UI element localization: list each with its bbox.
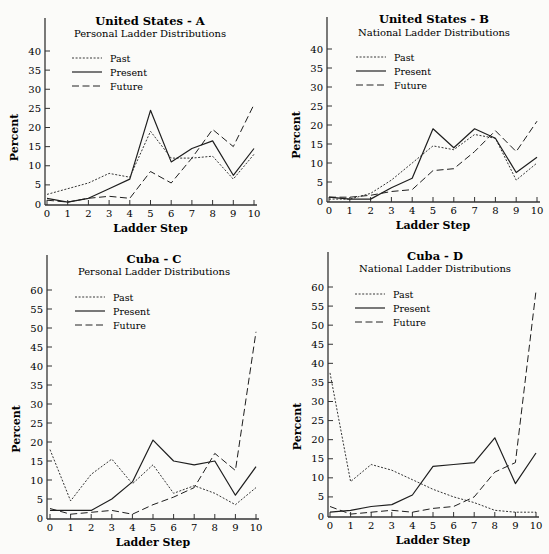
x-tick-label: 2 — [88, 522, 94, 533]
y-tick-label: 20 — [310, 120, 323, 131]
x-tick-label: 10 — [248, 208, 261, 219]
legend-label: Future — [113, 320, 146, 331]
x-tick-label: 0 — [44, 208, 50, 219]
y-tick-label: 25 — [28, 103, 41, 114]
x-tick-label: 2 — [85, 208, 91, 219]
series-past-line — [329, 135, 537, 200]
legend: PastPresentFuture — [356, 52, 431, 91]
series-past-line — [330, 373, 536, 512]
x-axis-label: Ladder Step — [116, 536, 191, 549]
x-tick-label: 3 — [388, 205, 394, 216]
y-tick-label: 5 — [35, 179, 41, 190]
y-tick-label: 15 — [30, 456, 43, 467]
legend-label: Future — [110, 81, 143, 92]
chart-us-a: United States - APersonal Ladder Distrib… — [8, 14, 260, 235]
x-tick-label: 2 — [368, 520, 374, 531]
y-tick-label: 15 — [310, 139, 323, 150]
chart-title: United States - B — [379, 12, 489, 26]
y-tick-label: 5 — [318, 491, 324, 502]
y-tick-label: 55 — [311, 301, 324, 312]
y-tick-label: 30 — [311, 396, 324, 407]
series-present-line — [329, 129, 537, 199]
chart-subtitle: Personal Ladder Distributions — [78, 266, 230, 277]
y-tick-label: 30 — [30, 399, 43, 410]
x-axis-label: Ladder Step — [113, 222, 188, 235]
x-tick-label: 4 — [129, 522, 135, 533]
x-tick-label: 3 — [389, 520, 395, 531]
x-tick-label: 10 — [530, 520, 543, 531]
x-tick-label: 6 — [170, 522, 176, 533]
chart-subtitle: Personal Ladder Distributions — [74, 28, 226, 39]
chart-title: United States - A — [95, 14, 205, 28]
y-tick-label: 40 — [28, 46, 41, 57]
y-tick-label: 5 — [317, 177, 323, 188]
figure-canvas: United States - APersonal Ladder Distrib… — [0, 0, 549, 554]
x-axis-label: Ladder Step — [396, 534, 471, 547]
y-tick-label: 20 — [30, 437, 43, 448]
y-tick-label: 60 — [30, 285, 43, 296]
y-tick-label: 30 — [28, 84, 41, 95]
x-tick-label: 1 — [347, 520, 353, 531]
legend-label: Present — [394, 66, 431, 77]
x-tick-label: 10 — [250, 522, 263, 533]
legend-label: Past — [394, 52, 415, 63]
y-tick-label: 35 — [30, 380, 43, 391]
y-tick-label: 55 — [30, 304, 43, 315]
legend-label: Past — [110, 53, 131, 64]
y-tick-label: 45 — [30, 342, 43, 353]
chart-title: Cuba - C — [127, 252, 182, 266]
y-tick-label: 45 — [311, 339, 324, 350]
y-tick-label: 10 — [311, 472, 324, 483]
y-axis-label: Percent — [8, 113, 21, 161]
legend-label: Present — [113, 306, 150, 317]
x-tick-label: 4 — [409, 205, 415, 216]
y-tick-label: 5 — [37, 494, 43, 505]
x-tick-label: 1 — [67, 522, 73, 533]
x-tick-label: 5 — [430, 205, 436, 216]
y-tick-label: 15 — [28, 141, 41, 152]
y-tick-label: 40 — [311, 358, 324, 369]
legend-label: Past — [113, 292, 134, 303]
series-present-line — [47, 110, 254, 202]
series-present-line — [50, 440, 256, 510]
x-tick-label: 9 — [230, 208, 236, 219]
y-tick-label: 25 — [310, 101, 323, 112]
x-tick-label: 1 — [65, 208, 71, 219]
chart-us-b: United States - BNational Ladder Distrib… — [290, 12, 543, 232]
x-tick-label: 4 — [409, 520, 415, 531]
y-tick-label: 50 — [311, 320, 324, 331]
x-tick-label: 7 — [471, 520, 477, 531]
y-tick-label: 20 — [311, 434, 324, 445]
legend-label: Future — [393, 317, 426, 328]
series-future-line — [50, 332, 256, 514]
x-tick-label: 1 — [347, 205, 353, 216]
x-tick-label: 8 — [212, 522, 218, 533]
x-axis-label: Ladder Step — [396, 219, 471, 232]
series-future-line — [330, 291, 536, 514]
y-tick-label: 35 — [28, 65, 41, 76]
legend-label: Present — [393, 303, 430, 314]
x-tick-label: 5 — [430, 520, 436, 531]
x-tick-label: 9 — [232, 522, 238, 533]
y-tick-label: 0 — [35, 199, 41, 210]
x-tick-label: 2 — [367, 205, 373, 216]
y-tick-label: 40 — [310, 44, 323, 55]
x-tick-label: 6 — [168, 208, 174, 219]
x-tick-label: 5 — [150, 522, 156, 533]
x-tick-label: 0 — [326, 205, 332, 216]
chart-cuba-d: Cuba - DNational Ladder Distributions051… — [291, 249, 542, 547]
y-axis-label: Percent — [290, 110, 303, 158]
chart-title: Cuba - D — [407, 249, 463, 263]
x-tick-label: 8 — [209, 208, 215, 219]
y-axis-label: Percent — [10, 404, 23, 452]
x-tick-label: 0 — [47, 522, 53, 533]
series-present-line — [330, 438, 536, 512]
series-future-line — [329, 121, 537, 197]
y-tick-label: 10 — [28, 160, 41, 171]
y-tick-label: 25 — [30, 418, 43, 429]
x-tick-label: 3 — [106, 208, 112, 219]
x-tick-label: 8 — [492, 205, 498, 216]
x-tick-label: 3 — [109, 522, 115, 533]
series-future-line — [47, 105, 254, 203]
y-tick-label: 35 — [311, 377, 324, 388]
